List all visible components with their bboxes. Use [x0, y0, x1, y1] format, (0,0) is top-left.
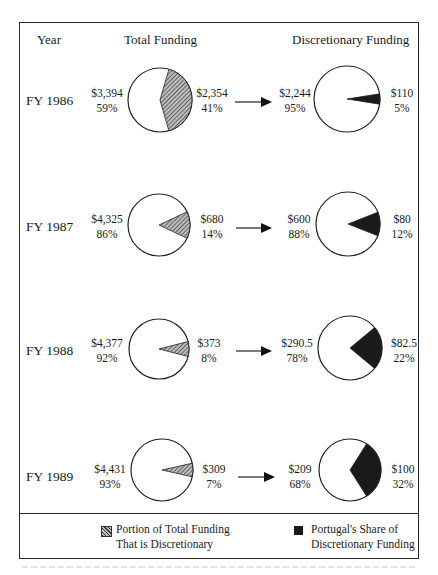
arrow-head-icon: [264, 472, 275, 482]
hatched-swatch-icon: [101, 526, 112, 537]
legend-hatched-line1: Portion of Total Funding: [116, 522, 230, 537]
legend-solid-line1: Portugal's Share of: [311, 522, 415, 537]
pie-charts: [0, 0, 438, 575]
solid-swatch-icon: [294, 526, 303, 535]
legend-solid: Portugal's Share of Discretionary Fundin…: [311, 522, 415, 552]
arrow-head-icon: [261, 346, 272, 356]
scan-artifact-line: [22, 566, 417, 568]
legend-solid-line2: Discretionary Funding: [311, 537, 415, 552]
arrow-head-icon: [261, 97, 272, 107]
arrow-head-icon: [261, 223, 272, 233]
legend-hatched-line2: That is Discretionary: [116, 537, 230, 552]
legend-hatched: Portion of Total Funding That is Discret…: [116, 522, 230, 552]
